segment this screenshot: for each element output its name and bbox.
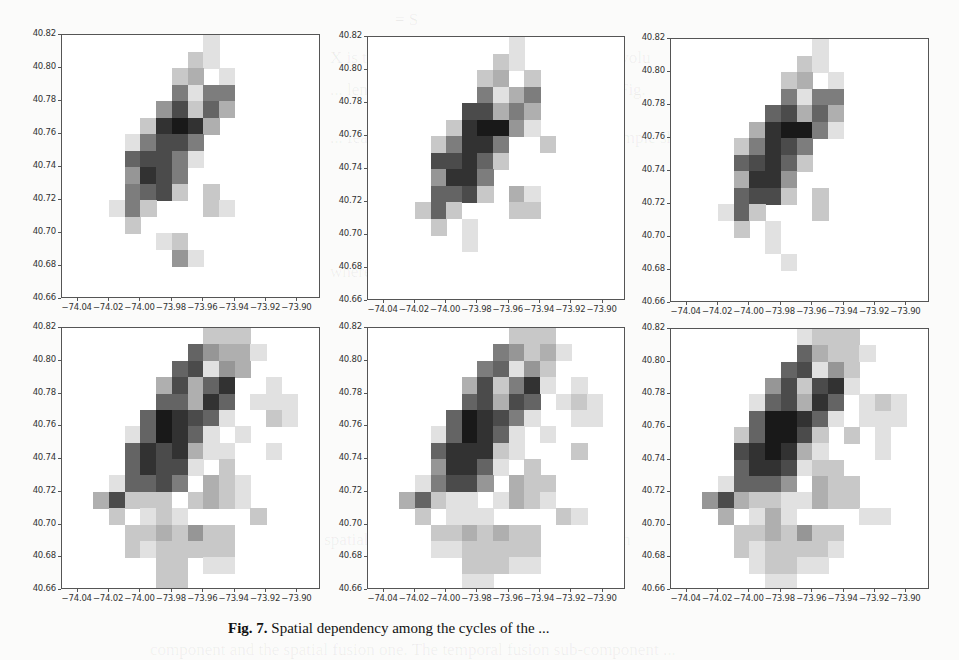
- x-tick-label: −73.90: [276, 593, 316, 603]
- heatmap-cell: [493, 136, 509, 153]
- heatmap-cell: [219, 85, 235, 102]
- y-tick-mark: [364, 267, 367, 268]
- x-tick-mark: [108, 298, 109, 301]
- heatmap-cell: [462, 525, 478, 542]
- y-tick-label: 40.80: [20, 61, 56, 71]
- heatmap-cell: [203, 52, 219, 69]
- y-tick-label: 40.68: [326, 261, 362, 271]
- heatmap-cell: [219, 328, 235, 345]
- heatmap-cell: [219, 200, 235, 217]
- heatmap-cell: [828, 89, 844, 106]
- heatmap-cell: [477, 410, 493, 427]
- heatmap-cell: [462, 508, 478, 525]
- heatmap-cell: [172, 68, 188, 85]
- heatmap-cell: [734, 204, 750, 221]
- y-tick-mark: [364, 234, 367, 235]
- y-tick-label: 40.82: [629, 32, 665, 42]
- heatmap-cell: [188, 492, 204, 509]
- heatmap-cell: [172, 525, 188, 542]
- heatmap-cell: [462, 169, 478, 186]
- y-tick-label: 40.82: [326, 321, 362, 331]
- heatmap-cell: [524, 541, 540, 558]
- heatmap-cell: [765, 541, 781, 558]
- heatmap-cell: [125, 200, 141, 217]
- heatmap-cell: [859, 345, 875, 362]
- heatmap-cell: [587, 410, 603, 427]
- y-tick-mark: [667, 459, 670, 460]
- heatmap-cell: [156, 184, 172, 201]
- heatmap-cell: [749, 525, 765, 542]
- heatmap-cell: [446, 541, 462, 558]
- heatmap-cell: [203, 101, 219, 118]
- y-tick-label: 40.74: [629, 453, 665, 463]
- y-tick-mark: [58, 265, 61, 266]
- heatmap-cell: [415, 475, 431, 492]
- y-tick-label: 40.74: [629, 164, 665, 174]
- heatmap-cell: [477, 574, 493, 589]
- heatmap-cell: [156, 410, 172, 427]
- y-tick-label: 40.70: [20, 518, 56, 528]
- heatmap-cell: [493, 459, 509, 476]
- heatmap-cell: [765, 427, 781, 444]
- heatmap-cell: [509, 344, 525, 361]
- heatmap-cell: [493, 70, 509, 87]
- y-tick-mark: [667, 328, 670, 329]
- heatmap-cell: [828, 492, 844, 509]
- y-tick-label: 40.70: [629, 518, 665, 528]
- heatmap-cell: [431, 443, 447, 460]
- heatmap-cell: [462, 475, 478, 492]
- heatmap-cell: [781, 105, 797, 122]
- heatmap-cell: [718, 492, 734, 509]
- bleed-line: = S: [395, 10, 418, 30]
- heatmap-cell: [797, 460, 813, 477]
- heatmap-cell: [587, 394, 603, 411]
- heatmap-cell: [524, 186, 540, 203]
- heatmap-cell: [797, 122, 813, 139]
- heatmap-cell: [797, 394, 813, 411]
- y-tick-mark: [667, 170, 670, 171]
- heatmap-cell: [493, 541, 509, 558]
- y-tick-mark: [364, 168, 367, 169]
- heatmap-cell: [844, 427, 860, 444]
- heatmap-cell: [765, 574, 781, 589]
- heatmap-cell: [203, 426, 219, 443]
- heatmap-cell: [828, 122, 844, 139]
- heatmap-cell: [219, 394, 235, 411]
- heatmap-cell: [188, 134, 204, 151]
- heatmap-cell: [462, 557, 478, 574]
- heatmap-cell: [431, 541, 447, 558]
- heatmap-cell: [431, 219, 447, 236]
- heatmap-cell: [125, 167, 141, 184]
- heatmap-cell: [140, 443, 156, 460]
- heatmap-cell: [219, 459, 235, 476]
- heatmap-cell: [509, 410, 525, 427]
- heatmap-cell: [765, 460, 781, 477]
- x-tick-mark: [602, 589, 603, 592]
- heatmap-cell: [188, 394, 204, 411]
- heatmap-cell: [749, 492, 765, 509]
- y-tick-label: 40.72: [20, 193, 56, 203]
- heatmap-cell: [571, 394, 587, 411]
- y-tick-mark: [58, 425, 61, 426]
- heatmap-cell: [477, 103, 493, 120]
- heatmap-cell: [493, 54, 509, 71]
- heatmap-cell: [844, 329, 860, 346]
- heatmap-cell: [125, 134, 141, 151]
- heatmap-cell: [702, 492, 718, 509]
- heatmap-cell: [282, 410, 298, 427]
- heatmap-cell: [431, 202, 447, 219]
- heatmap-cell: [156, 508, 172, 525]
- heatmap-cell: [188, 85, 204, 102]
- heatmap-cell: [875, 411, 891, 428]
- heatmap-cell: [571, 377, 587, 394]
- heatmap-cell: [797, 329, 813, 346]
- heatmap-cell: [203, 541, 219, 558]
- y-tick-mark: [58, 524, 61, 525]
- heatmap-cell: [749, 171, 765, 188]
- heatmap-cell: [781, 557, 797, 574]
- heatmap-cell: [797, 492, 813, 509]
- heatmap-cell: [431, 492, 447, 509]
- y-tick-mark: [58, 100, 61, 101]
- heatmap-cell: [188, 426, 204, 443]
- heatmap-cell: [156, 134, 172, 151]
